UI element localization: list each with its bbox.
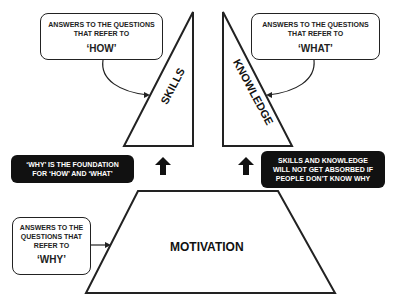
foundation-note: ‘WHY’ IS THE FOUNDATION FOR ‘HOW’ AND ‘W… [11,155,134,183]
motivation-label: MOTIVATION [170,240,244,254]
absorption-note: SKILLS AND KNOWLEDGE WILL NOT GET ABSORB… [261,151,385,188]
up-arrow-icon-right [238,157,254,175]
how-callout-keyword: ‘HOW’ [41,43,162,55]
how-connector-arrow [103,60,148,95]
foundation-note-line2: FOR ‘HOW’ AND ‘WHAT’ [11,169,134,178]
what-callout: ANSWERS TO THE QUESTIONS THAT REFER TO ‘… [251,13,380,60]
why-callout-line2: QUESTIONS THAT [13,232,90,241]
how-callout: ANSWERS TO THE QUESTIONS THAT REFER TO ‘… [40,13,163,60]
absorption-note-line3: PEOPLE DON’T KNOW WHY [261,174,385,183]
why-callout-line1: ANSWERS TO THE [13,223,90,232]
why-callout: ANSWERS TO THE QUESTIONS THAT REFER TO ‘… [12,217,91,275]
how-callout-line1: ANSWERS TO THE QUESTIONS [41,20,162,29]
why-callout-line3: REFER TO [13,241,90,250]
foundation-note-line1: ‘WHY’ IS THE FOUNDATION [11,160,134,169]
what-callout-line1: ANSWERS TO THE QUESTIONS [252,20,379,29]
why-callout-keyword: ‘WHY’ [13,254,90,266]
absorption-note-line1: SKILLS AND KNOWLEDGE [261,156,385,165]
absorption-note-line2: WILL NOT GET ABSORBED IF [261,165,385,174]
how-callout-line2: THAT REFER TO [41,29,162,38]
what-callout-line2: THAT REFER TO [252,29,379,38]
what-callout-keyword: ‘WHAT’ [252,43,379,55]
up-arrow-icon-left [155,157,171,175]
what-connector-arrow [268,60,314,95]
